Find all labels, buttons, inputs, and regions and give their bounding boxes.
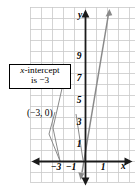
y-tick-label-3: 3: [74, 117, 84, 127]
x-axis: [32, 158, 133, 166]
callout-x-intercept: x-intercept is −3: [9, 64, 71, 89]
callout-line-1-rest: -intercept: [24, 65, 59, 75]
y-tick-label-1: 1: [74, 139, 84, 149]
x-axis-arrowhead-left: [32, 158, 40, 166]
x-axis-name-label: x: [121, 161, 126, 171]
x-tick-label-minus3: −3: [49, 162, 63, 172]
line-arrowhead-up: [106, 9, 113, 16]
y-tick-label-5: 5: [74, 95, 84, 105]
x-tick-label-minus1: −1: [64, 162, 78, 172]
point-label-minus3-0: (−3, 0): [27, 108, 53, 118]
figure-coordinate-plane: x-intercept is −3 (−3, 0) −3 −1 1 1 3 5 …: [0, 0, 135, 188]
y-tick-label-9: 9: [74, 51, 84, 61]
callout-line-2: is −3: [11, 76, 69, 86]
x-tick-label-1: 1: [97, 162, 109, 172]
y-axis-arrowhead-down: [82, 178, 90, 186]
y-axis-arrowhead-up: [82, 10, 90, 18]
graph-canvas: [0, 0, 135, 188]
y-tick-label-7: 7: [74, 73, 84, 83]
y-axis-name-label: y: [78, 10, 82, 20]
